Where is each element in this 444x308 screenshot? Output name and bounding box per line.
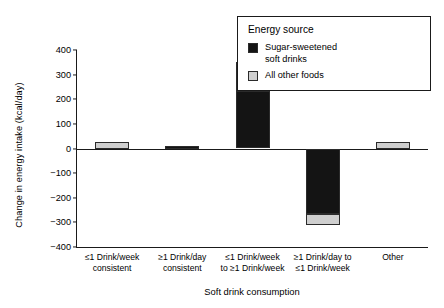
x-axis-tick-label: ≤1 Drink/weekconsistent — [85, 252, 139, 275]
y-axis-tick-mark — [73, 99, 77, 100]
chart-legend: Energy source Sugar-sweetenedsoft drinks… — [237, 16, 431, 91]
legend-label-other-foods: All other foods — [265, 70, 324, 82]
y-axis-tick-mark — [73, 74, 77, 75]
x-axis-tick-label: ≥1 Drink/day to≤1 Drink/week — [294, 252, 352, 275]
y-axis-tick-mark — [73, 197, 77, 198]
y-axis-tick-mark — [73, 173, 77, 174]
legend-swatch-icon-soft-drinks — [248, 43, 258, 53]
chart-figure: Change in energy intake (kcal/day) 40030… — [0, 0, 444, 308]
bar-segment-soft-drinks[interactable] — [165, 146, 199, 149]
bar-segment-soft-drinks[interactable] — [236, 91, 270, 149]
bar-group[interactable] — [165, 50, 199, 247]
y-axis-tick-mark — [73, 49, 77, 50]
legend-title: Energy source — [248, 24, 421, 35]
legend-swatch-icon-other-foods — [248, 71, 258, 81]
legend-label-soft-drinks: Sugar-sweetenedsoft drinks — [265, 42, 337, 65]
legend-item-all-other-foods: All other foods — [248, 70, 421, 82]
bar-segment-soft-drinks[interactable] — [306, 149, 340, 214]
bar-segment-other-foods[interactable] — [376, 142, 410, 148]
y-axis-tick-mark — [73, 123, 77, 124]
y-axis-tick-mark — [73, 222, 77, 223]
legend-item-sugar-sweetened-soft-drinks: Sugar-sweetenedsoft drinks — [248, 42, 421, 65]
bar-segment-other-foods[interactable] — [306, 214, 340, 225]
bar-segment-other-foods[interactable] — [95, 142, 129, 148]
y-axis-tick-mark — [73, 246, 77, 247]
bar-group[interactable] — [95, 50, 129, 247]
x-axis-tick-label: Other — [382, 252, 404, 263]
x-axis-title: Soft drink consumption — [76, 286, 428, 297]
y-axis-tick-mark — [73, 148, 77, 149]
x-axis-tick-label: ≤1 Drink/weekto ≥1 Drink/week — [221, 252, 285, 275]
x-axis-tick-label: ≥1 Drink/dayconsistent — [158, 252, 206, 275]
y-axis-title: Change in energy intake (kcal/day) — [14, 50, 24, 260]
